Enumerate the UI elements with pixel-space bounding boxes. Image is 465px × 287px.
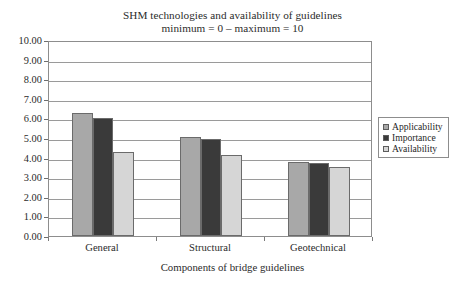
x-axis-tick-mark: [372, 237, 373, 241]
bar: [72, 113, 93, 236]
legend-item: Importance: [383, 132, 445, 143]
y-axis-tick-label: 7.00: [0, 94, 42, 105]
y-axis-tick-label: 3.00: [0, 172, 42, 183]
legend-item-label: Availability: [392, 143, 437, 154]
y-axis-tick-label: 4.00: [0, 153, 42, 164]
chart-legend: ApplicabilityImportanceAvailability: [378, 117, 449, 158]
x-axis-tick-mark: [156, 237, 157, 241]
x-axis-tick-mark: [48, 237, 49, 241]
x-axis-category-label: Geotechnical: [264, 242, 372, 253]
bar: [221, 155, 242, 236]
bar: [93, 118, 114, 236]
y-axis-tick-label: 1.00: [0, 211, 42, 222]
chart-figure: SHM technologies and availability of gui…: [0, 0, 465, 287]
y-axis-tick-label: 6.00: [0, 113, 42, 124]
y-axis-tick-label: 8.00: [0, 74, 42, 85]
gridline: [49, 101, 371, 102]
legend-swatch-icon: [383, 124, 389, 130]
bar: [309, 163, 330, 236]
x-axis-category-label: Structural: [156, 242, 264, 253]
legend-item-label: Importance: [392, 132, 436, 143]
chart-title: SHM technologies and availability of gui…: [0, 9, 465, 22]
gridline: [49, 62, 371, 63]
legend-item-label: Applicability: [392, 121, 443, 132]
y-axis-tick-label: 2.00: [0, 192, 42, 203]
x-axis-tick-mark: [264, 237, 265, 241]
legend-item: Applicability: [383, 121, 445, 132]
bar: [113, 152, 134, 236]
legend-swatch-icon: [383, 146, 389, 152]
y-axis-tick-label: 10.00: [0, 35, 42, 46]
x-axis-title: Components of bridge guidelines: [0, 261, 465, 273]
y-axis-tick-label: 0.00: [0, 231, 42, 242]
legend-item: Availability: [383, 143, 445, 154]
x-axis-category-label: General: [48, 242, 156, 253]
bar: [201, 139, 222, 236]
bar: [288, 162, 309, 236]
legend-swatch-icon: [383, 135, 389, 141]
y-axis-tick-label: 5.00: [0, 133, 42, 144]
chart-title-block: SHM technologies and availability of gui…: [0, 9, 465, 35]
plot-area: [48, 41, 372, 237]
bar: [329, 167, 350, 236]
y-axis-tick-label: 9.00: [0, 55, 42, 66]
bar: [180, 137, 201, 236]
gridline: [49, 81, 371, 82]
chart-subtitle: minimum = 0 – maximum = 10: [0, 22, 465, 35]
